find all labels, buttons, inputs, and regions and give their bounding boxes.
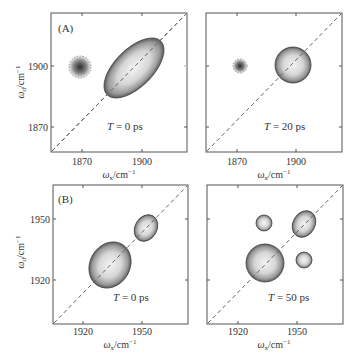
- ytick-1920: 1920: [30, 275, 50, 286]
- xtick-1950: 1950: [287, 326, 307, 337]
- annotation-t20: T = 20 ps: [264, 120, 305, 132]
- y-axis-label: ωd/cm−1: [14, 65, 28, 99]
- annotation-t0: T = 0 ps: [107, 120, 143, 132]
- xtick-1900: 1900: [132, 156, 152, 167]
- panel-b-right: T = 50 ps 1920 1950 ωx/cm−1: [207, 185, 343, 352]
- cross-peak-upper: [256, 215, 272, 231]
- panel-a-left: (A) T = 0 ps 1870 1900 1900 1870 ωx/cm−1…: [14, 13, 187, 182]
- x-axis-label: ωx/cm−1: [257, 338, 291, 352]
- figure-2d-ir-spectra: (A) T = 0 ps 1870 1900 1900 1870 ωx/cm−1…: [0, 0, 358, 362]
- cross-peak-dot: [69, 56, 91, 78]
- cross-peak-dot: [233, 59, 247, 73]
- xtick-1900: 1900: [286, 156, 306, 167]
- xtick-1920: 1920: [73, 326, 93, 337]
- diagonal-peak-circle: [275, 47, 311, 83]
- panel-label-b: (B): [58, 193, 73, 206]
- xtick-1920: 1920: [228, 326, 248, 337]
- annotation-t0: T = 0 ps: [113, 291, 149, 303]
- x-axis-label: ωx/cm−1: [102, 168, 136, 182]
- x-axis-label: ωx/cm−1: [257, 168, 291, 182]
- ytick-1870: 1870: [28, 122, 48, 133]
- panel-a-right: T = 20 ps 1870 1900 ωx/cm−1: [182, 13, 342, 182]
- cross-peak-lower: [296, 252, 312, 268]
- diagonal-peak-ellipse: [94, 28, 175, 109]
- y-axis-label: ωd/cm−1: [14, 235, 28, 269]
- panel-label-a: (A): [58, 22, 74, 35]
- diagonal-peak-large: [246, 244, 284, 282]
- annotation-t50: T = 50 ps: [268, 291, 309, 303]
- xtick-1870: 1870: [227, 156, 247, 167]
- xtick-1870: 1870: [72, 156, 92, 167]
- x-axis-label: ωx/cm−1: [103, 338, 137, 352]
- ytick-1900: 1900: [28, 61, 48, 72]
- panel-b-left: (B) T = 0 ps 1920 1950 1950 1920 ωx/cm−1…: [14, 185, 188, 352]
- ytick-1950: 1950: [30, 214, 50, 225]
- xtick-1950: 1950: [132, 326, 152, 337]
